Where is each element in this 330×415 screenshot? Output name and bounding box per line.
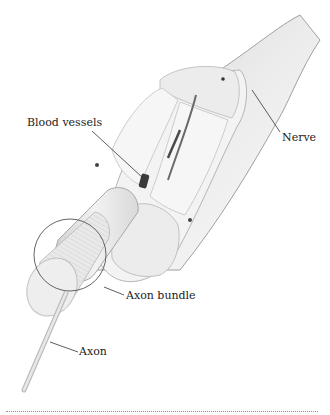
label-axon: Axon (79, 346, 107, 357)
label-axon-bundle: Axon bundle (126, 290, 196, 301)
leader-axon (50, 342, 78, 352)
nerve-illustration (0, 0, 330, 415)
leader-axon-bundle (104, 287, 124, 295)
label-blood-vessels: Blood vessels (27, 117, 102, 128)
vessel-dot (221, 77, 225, 81)
vessel-dot (188, 218, 192, 222)
dotted-divider (6, 411, 318, 412)
label-nerve: Nerve (282, 132, 316, 143)
vessel-dot (95, 163, 99, 167)
nerve-diagram: Blood vessels Nerve Axon bundle Axon (0, 0, 330, 415)
